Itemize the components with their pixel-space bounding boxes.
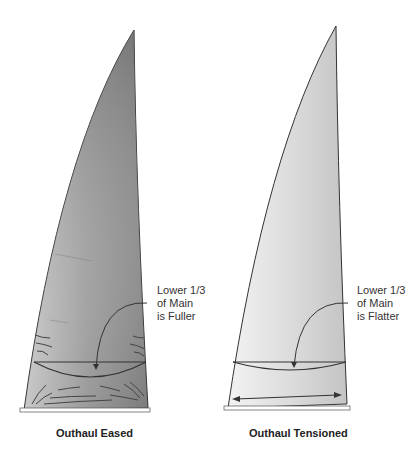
sail-diagram xyxy=(0,0,419,460)
annotation-eased: Lower 1/3 of Main is Fuller xyxy=(157,284,205,323)
annotation-line: of Main xyxy=(157,297,205,310)
annotation-line: is Flatter xyxy=(357,310,405,323)
annotation-line: Lower 1/3 xyxy=(357,284,405,297)
annotation-line: is Fuller xyxy=(157,310,205,323)
sail-eased xyxy=(20,30,150,412)
caption-tensioned: Outhaul Tensioned xyxy=(249,427,348,439)
caption-eased: Outhaul Eased xyxy=(56,427,133,439)
sail-tensioned xyxy=(224,26,350,410)
annotation-line: Lower 1/3 xyxy=(157,284,205,297)
annotation-line: of Main xyxy=(357,297,405,310)
annotation-tensioned: Lower 1/3 of Main is Flatter xyxy=(357,284,405,323)
